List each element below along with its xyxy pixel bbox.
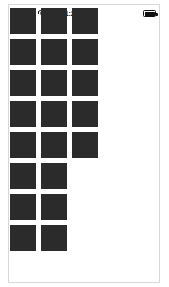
grid-tile[interactable] (41, 70, 67, 96)
grid-tile[interactable] (72, 8, 98, 34)
grid-tile[interactable] (72, 39, 98, 65)
grid-tile[interactable] (72, 132, 98, 158)
grid-tile[interactable] (10, 194, 36, 220)
grid-tile[interactable] (10, 163, 36, 189)
grid-tile[interactable] (10, 132, 36, 158)
tile-grid (10, 8, 160, 283)
grid-tile[interactable] (10, 70, 36, 96)
grid-tile[interactable] (41, 101, 67, 127)
grid-tile[interactable] (10, 225, 36, 251)
grid-tile[interactable] (41, 39, 67, 65)
grid-tile[interactable] (72, 70, 98, 96)
grid-tile[interactable] (10, 8, 36, 34)
grid-tile[interactable] (41, 163, 67, 189)
grid-tile[interactable] (10, 39, 36, 65)
screen: Carrier 11:23 AM (0, 0, 169, 287)
grid-tile[interactable] (10, 101, 36, 127)
grid-tile[interactable] (41, 225, 67, 251)
grid-tile[interactable] (41, 194, 67, 220)
grid-tile[interactable] (41, 8, 67, 34)
grid-tile[interactable] (41, 132, 67, 158)
grid-tile[interactable] (72, 101, 98, 127)
